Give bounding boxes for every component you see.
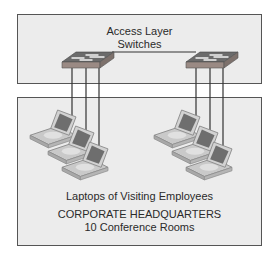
network-diagram	[0, 0, 278, 260]
switch-icon	[186, 52, 238, 68]
switch-icon	[62, 52, 114, 68]
laptop-group-right	[154, 110, 232, 180]
laptop-group-left	[30, 110, 108, 180]
